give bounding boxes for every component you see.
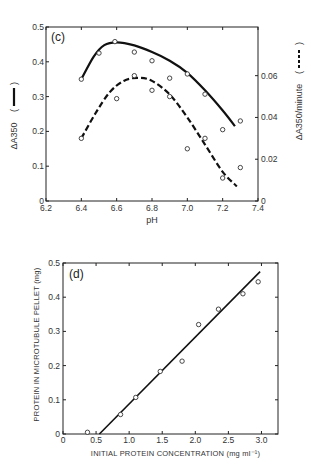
data-point-solid-series [150, 59, 154, 63]
panel-d-x-axis-title: INITIAL PROTEIN CONCENTRATION (mg ml⁻¹) [91, 449, 261, 458]
x-tick-label: 2.0 [189, 435, 201, 445]
data-point-solid-series [167, 76, 171, 80]
data-point [180, 359, 184, 363]
data-point [118, 412, 122, 416]
figure: 6.26.46.66.87.07.27.4 00.10.20.30.40.5 0… [0, 0, 311, 466]
right-axis-title-group: ΔA350/minute() [294, 42, 304, 140]
data-point-dashed-series [185, 147, 189, 151]
left-axis-legend-close-paren: ) [9, 82, 19, 85]
x-tick-label: 7.2 [217, 203, 229, 213]
y-tick-label-left: 0 [39, 196, 44, 206]
data-point-solid-series [238, 119, 242, 123]
panel-d-fit-line [99, 272, 260, 434]
data-point-dashed-series [203, 136, 207, 140]
panel-c-label: (c) [51, 30, 65, 44]
x-tick-label: 1.5 [156, 435, 168, 445]
x-tick-label: 0.5 [90, 435, 102, 445]
panel-d-concentration-chart: 00.51.01.52.02.53.0 00.10.20.30.40.5 (d)… [32, 258, 278, 458]
x-tick-label: 3.0 [256, 435, 268, 445]
x-tick-label: 2.5 [222, 435, 234, 445]
data-point-dashed-series [238, 165, 242, 169]
y-tick-label: 0.4 [48, 292, 60, 302]
data-point-dashed-series [132, 73, 136, 77]
y-tick-label: 0.1 [48, 395, 60, 405]
left-axis-title-group: ΔA350() [9, 82, 19, 150]
data-point-dashed-series [150, 88, 154, 92]
data-point [85, 430, 89, 434]
data-point-solid-series [220, 127, 224, 131]
panel-d-y-ticks: 00.10.20.30.40.5 [48, 258, 278, 439]
panel-c-y-axis-title-right: ΔA350/minute() [294, 42, 304, 140]
y-tick-label-left: 0.5 [32, 22, 44, 32]
y-tick-label: 0.3 [48, 326, 60, 336]
data-point [158, 369, 162, 373]
y-tick-label-left: 0.3 [32, 92, 44, 102]
data-point-dashed-series [220, 176, 224, 180]
y-tick-label: 0.5 [48, 258, 60, 268]
panel-c-dashed-fit-line [81, 78, 237, 187]
left-axis-title-text: ΔA350 [9, 122, 19, 149]
y-tick-label-right: 0.02 [261, 154, 278, 164]
y-tick-label-right: 0 [261, 196, 266, 206]
left-axis-legend-open-paren: ( [9, 109, 19, 112]
x-tick-label: 0 [61, 435, 66, 445]
x-tick-label: 6.8 [146, 203, 158, 213]
panel-c-x-axis-title: pH [146, 215, 158, 225]
data-point-solid-series [113, 39, 117, 43]
data-point-solid-series [132, 50, 136, 54]
panel-d-label: (d) [69, 267, 84, 281]
data-point [256, 280, 260, 284]
panel-d-y-axis-title: PROTEIN IN MICROTUBULE PELLET (mg) [32, 267, 41, 421]
panel-c-points [79, 39, 242, 180]
panel-d-points [85, 280, 260, 435]
data-point-solid-series [203, 92, 207, 96]
data-point [134, 395, 138, 399]
data-point-dashed-series [79, 136, 83, 140]
x-tick-label: 6.6 [111, 203, 123, 213]
y-tick-label-right: 0.06 [261, 71, 278, 81]
data-point-solid-series [79, 77, 83, 81]
panel-d-plot-frame [63, 263, 278, 434]
x-tick-label: 7.0 [181, 203, 193, 213]
y-tick-label-left: 0.1 [32, 161, 44, 171]
y-tick-label: 0.2 [48, 361, 60, 371]
data-point-solid-series [185, 72, 189, 76]
x-tick-label: 1.0 [123, 435, 135, 445]
right-axis-legend-open-paren: ( [294, 71, 304, 74]
data-point [196, 322, 200, 326]
panel-c-y-axis-title-left: ΔA350() [9, 82, 19, 150]
x-tick-label: 6.4 [75, 203, 87, 213]
y-tick-label: 0 [55, 429, 60, 439]
data-point-dashed-series [167, 94, 171, 98]
right-axis-legend-close-paren: ) [294, 42, 304, 45]
data-point [216, 307, 220, 311]
right-axis-title-text: ΔA350/minute [294, 84, 304, 141]
y-tick-label-right: 0.04 [261, 112, 278, 122]
panel-d-x-ticks: 00.51.01.52.02.53.0 [61, 263, 268, 445]
y-tick-label-left: 0.2 [32, 126, 44, 136]
data-point-solid-series [97, 51, 101, 55]
panel-c-ph-chart: 6.26.46.66.87.07.27.4 00.10.20.30.40.5 0… [9, 22, 304, 225]
data-point [241, 292, 245, 296]
y-tick-label-left: 0.4 [32, 57, 44, 67]
data-point-dashed-series [114, 96, 118, 100]
